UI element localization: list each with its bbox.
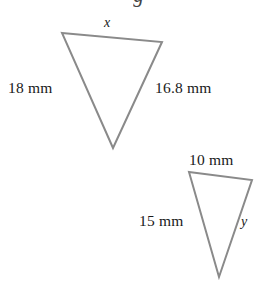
label-large-right-16-8mm: 16.8 mm (155, 80, 212, 96)
label-small-right-y: y (241, 215, 247, 229)
triangle-large (62, 33, 162, 148)
label-large-left-18mm: 18 mm (8, 80, 53, 96)
label-large-top-x: x (104, 16, 110, 30)
geometry-diagram (0, 0, 277, 284)
label-small-left-15mm: 15 mm (139, 213, 184, 229)
figure-canvas: g x 18 mm 16.8 mm 10 mm 15 mm y (0, 0, 277, 284)
label-small-top-10mm: 10 mm (189, 152, 234, 168)
